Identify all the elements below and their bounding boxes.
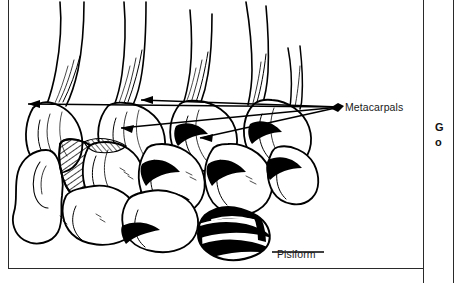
- metacarpal-shaft-2: [114, 2, 146, 106]
- arrow-convergence-point: [330, 103, 344, 112]
- metacarpal-shaft-5: [288, 46, 302, 109]
- margin-text-line-2: o: [435, 136, 442, 148]
- right-margin-column: G o: [424, 0, 453, 283]
- anatomical-line-drawing: [0, 0, 423, 269]
- metacarpal-shaft-4: [246, 2, 268, 105]
- hand-skeleton-illustration: [0, 0, 423, 269]
- metacarpal-shaft-1: [47, 2, 84, 106]
- carpal-pisiform: [192, 203, 278, 260]
- margin-text-line-1: G: [435, 121, 444, 133]
- metacarpal-shaft-3: [183, 10, 212, 105]
- callout-label-pisiform: Pisiform: [277, 248, 316, 260]
- callout-label-metacarpals: Metacarpals: [345, 101, 403, 113]
- figure-page: Metacarpals Pisiform G o: [0, 0, 454, 283]
- carpal-trapezium: [13, 150, 63, 243]
